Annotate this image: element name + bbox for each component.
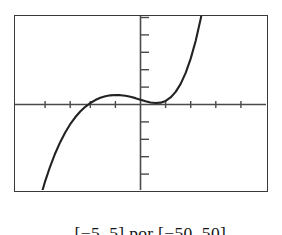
y-axis-ticks bbox=[141, 18, 149, 175]
graph-canvas bbox=[15, 16, 266, 190]
figure-container: [−5, 5] por [−50, 50] bbox=[0, 0, 282, 235]
caption-connector: por bbox=[129, 223, 153, 235]
graph-plot-frame bbox=[14, 15, 268, 192]
caption-y-interval: [−50, 50] bbox=[158, 223, 226, 235]
caption-x-interval: [−5, 5] bbox=[75, 223, 125, 235]
figure-caption: [−5, 5] por [−50, 50] bbox=[0, 197, 282, 235]
